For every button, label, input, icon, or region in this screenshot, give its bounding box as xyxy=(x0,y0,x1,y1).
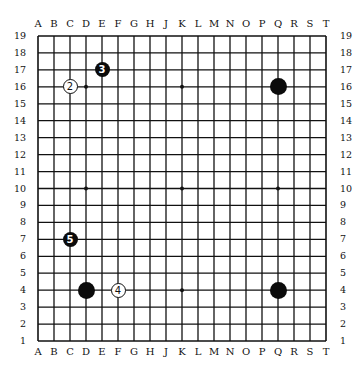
left-row-label: 19 xyxy=(8,30,26,41)
right-row-label: 14 xyxy=(340,115,358,126)
right-row-label: 3 xyxy=(340,301,358,312)
right-row-label: 15 xyxy=(340,98,358,109)
right-row-label: 11 xyxy=(340,166,358,177)
left-row-label: 8 xyxy=(8,216,26,227)
left-row-label: 7 xyxy=(8,233,26,244)
left-row-label: 4 xyxy=(8,284,26,295)
hoshi-point xyxy=(180,187,184,191)
bottom-col-label: A xyxy=(31,346,45,357)
top-col-label: S xyxy=(303,18,317,29)
bottom-col-label: T xyxy=(319,346,333,357)
bottom-col-label: G xyxy=(127,346,141,357)
left-row-label: 13 xyxy=(8,132,26,143)
left-row-label: 16 xyxy=(8,81,26,92)
top-col-label: T xyxy=(319,18,333,29)
bottom-col-label: K xyxy=(175,346,189,357)
top-col-label: L xyxy=(191,18,205,29)
right-row-label: 18 xyxy=(340,47,358,58)
top-col-label: N xyxy=(223,18,237,29)
hoshi-point xyxy=(276,187,280,191)
top-col-label: O xyxy=(239,18,253,29)
top-col-label: P xyxy=(255,18,269,29)
hoshi-point xyxy=(84,85,88,89)
left-row-label: 10 xyxy=(8,183,26,194)
go-board: AABBCCDDEEFFGGHHJJKKLLMMNNOOPPQQRRSSTT19… xyxy=(0,0,364,378)
top-col-label: A xyxy=(31,18,45,29)
right-row-label: 19 xyxy=(340,30,358,41)
left-row-label: 18 xyxy=(8,47,26,58)
bottom-col-label: S xyxy=(303,346,317,357)
top-col-label: E xyxy=(95,18,109,29)
bottom-col-label: L xyxy=(191,346,205,357)
left-row-label: 2 xyxy=(8,318,26,329)
left-row-label: 5 xyxy=(8,267,26,278)
top-col-label: C xyxy=(63,18,77,29)
top-col-label: J xyxy=(159,18,173,29)
right-row-label: 7 xyxy=(340,233,358,244)
right-row-label: 1 xyxy=(340,335,358,346)
left-row-label: 6 xyxy=(8,250,26,261)
board-grid xyxy=(0,0,364,378)
left-row-label: 12 xyxy=(8,149,26,160)
bottom-col-label: F xyxy=(111,346,125,357)
left-row-label: 3 xyxy=(8,301,26,312)
bottom-col-label: N xyxy=(223,346,237,357)
left-row-label: 17 xyxy=(8,64,26,75)
top-col-label: D xyxy=(79,18,93,29)
top-col-label: H xyxy=(143,18,157,29)
right-row-label: 16 xyxy=(340,81,358,92)
right-row-label: 13 xyxy=(340,132,358,143)
left-row-label: 9 xyxy=(8,199,26,210)
left-row-label: 15 xyxy=(8,98,26,109)
white-stone-c16: 2 xyxy=(63,79,78,94)
white-stone-f4: 4 xyxy=(111,283,126,298)
left-row-label: 11 xyxy=(8,166,26,177)
left-row-label: 14 xyxy=(8,115,26,126)
right-row-label: 6 xyxy=(340,250,358,261)
bottom-col-label: D xyxy=(79,346,93,357)
top-col-label: F xyxy=(111,18,125,29)
hoshi-point xyxy=(180,288,184,292)
right-row-label: 10 xyxy=(340,183,358,194)
right-row-label: 12 xyxy=(340,149,358,160)
black-stone-e17: 3 xyxy=(95,62,110,77)
hoshi-point xyxy=(84,187,88,191)
black-stone-d4 xyxy=(78,282,95,299)
right-row-label: 17 xyxy=(340,64,358,75)
top-col-label: G xyxy=(127,18,141,29)
bottom-col-label: E xyxy=(95,346,109,357)
hoshi-point xyxy=(180,85,184,89)
top-col-label: Q xyxy=(271,18,285,29)
top-col-label: M xyxy=(207,18,221,29)
bottom-col-label: J xyxy=(159,346,173,357)
black-stone-c7: 5 xyxy=(63,232,78,247)
bottom-col-label: R xyxy=(287,346,301,357)
bottom-col-label: P xyxy=(255,346,269,357)
right-row-label: 5 xyxy=(340,267,358,278)
left-row-label: 1 xyxy=(8,335,26,346)
bottom-col-label: O xyxy=(239,346,253,357)
top-col-label: R xyxy=(287,18,301,29)
black-stone-q4 xyxy=(270,282,287,299)
black-stone-q16 xyxy=(270,78,287,95)
right-row-label: 9 xyxy=(340,199,358,210)
bottom-col-label: M xyxy=(207,346,221,357)
bottom-col-label: H xyxy=(143,346,157,357)
bottom-col-label: B xyxy=(47,346,61,357)
right-row-label: 4 xyxy=(340,284,358,295)
bottom-col-label: Q xyxy=(271,346,285,357)
top-col-label: B xyxy=(47,18,61,29)
top-col-label: K xyxy=(175,18,189,29)
right-row-label: 8 xyxy=(340,216,358,227)
right-row-label: 2 xyxy=(340,318,358,329)
bottom-col-label: C xyxy=(63,346,77,357)
